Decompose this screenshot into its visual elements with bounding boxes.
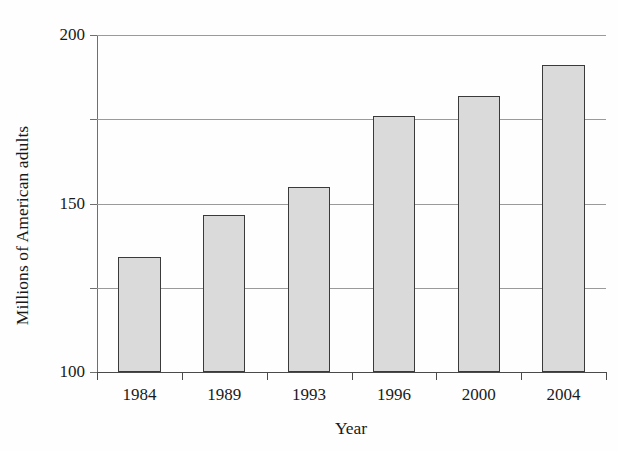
y-tick-200: 200	[90, 35, 97, 36]
x-tick	[606, 372, 607, 380]
y-tick-label: 150	[60, 194, 86, 214]
gridline-150	[97, 119, 606, 120]
x-tick-label-1989: 1989	[207, 385, 241, 405]
x-tick	[436, 372, 437, 380]
bar-2000	[458, 96, 500, 372]
y-tick-0: 0	[90, 372, 97, 373]
x-tick	[352, 372, 353, 380]
gridline-200	[97, 35, 606, 36]
x-tick	[267, 372, 268, 380]
bar-1984	[118, 257, 160, 372]
bar-chart-figure: Millions of American adults 050100150200…	[0, 0, 618, 451]
gridline-50	[97, 288, 606, 289]
plot-area: 050100150200198419891993199620002004	[97, 35, 606, 372]
y-tick-label: 200	[60, 25, 86, 45]
y-tick-50: 50	[90, 288, 97, 289]
bar-1993	[288, 187, 330, 372]
y-tick-150: 150	[90, 119, 97, 120]
bar-1989	[203, 215, 245, 372]
bar-1996	[373, 116, 415, 372]
x-tick-label-1996: 1996	[377, 385, 411, 405]
y-tick-100: 100	[90, 204, 97, 205]
x-axis-title: Year	[96, 418, 606, 439]
gridline-100	[97, 204, 606, 205]
bar-2004	[542, 65, 584, 372]
y-tick-label: 100	[60, 362, 86, 382]
x-tick	[182, 372, 183, 380]
x-tick	[97, 372, 98, 380]
x-tick	[521, 372, 522, 380]
x-tick-label-2000: 2000	[462, 385, 496, 405]
x-tick-label-2004: 2004	[547, 385, 581, 405]
x-tick-label-1993: 1993	[292, 385, 326, 405]
x-tick-label-1984: 1984	[122, 385, 156, 405]
y-axis-title: Millions of American adults	[0, 0, 44, 451]
